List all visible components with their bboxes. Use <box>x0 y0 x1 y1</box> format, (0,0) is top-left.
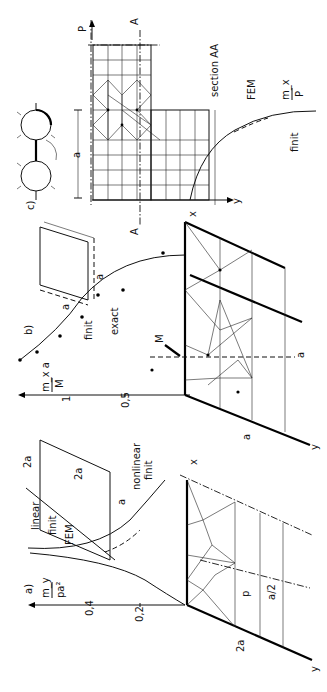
axis-x-a: x <box>188 459 199 465</box>
finit-label-a1: finit <box>47 516 58 535</box>
figure-canvas: c) a <box>0 0 327 692</box>
ylabel-den-b: M <box>54 379 65 388</box>
dim-a-a: a <box>116 499 127 505</box>
finit-label-a2: finit <box>143 461 154 480</box>
finit-label-c: finit <box>289 133 300 152</box>
fem-label-c: FEM <box>246 79 257 100</box>
axis-y-c: y <box>231 198 242 204</box>
finit-label-b: finit <box>83 321 94 340</box>
dim-2a-a2: 2a <box>73 468 84 481</box>
panel-a-label: a) <box>23 584 34 594</box>
load-M: M <box>154 334 165 343</box>
panel-a: 2a 2a a linear finit FEM nonlinear finit… <box>22 440 320 672</box>
dim-a-b1: a <box>60 304 71 310</box>
section-aa-label: section AA <box>209 44 220 97</box>
tick-02-a: 0,2 <box>134 606 145 622</box>
circle-joint-icon <box>17 103 57 200</box>
ylabel-num-c: m_x <box>280 79 292 100</box>
linear-label: linear <box>30 501 41 530</box>
axis-x-b: x <box>187 211 198 217</box>
panel-b: b) a a finit exact m_x a M 1 0,5 <box>18 211 320 450</box>
load-P: P <box>77 26 88 32</box>
nonlinear-label: nonlinear <box>131 442 142 490</box>
dim-2a-a3: 2a <box>235 640 246 653</box>
dim-a-b4: a <box>241 434 252 440</box>
axis-y-a: y <box>309 666 320 672</box>
ylabel-den-a: pa² <box>55 582 66 598</box>
fem-label-a: FEM <box>64 524 75 545</box>
section-mark-A-bottom: A <box>129 228 140 235</box>
dim-a-c: a <box>71 152 82 158</box>
exact-curve-b <box>20 255 185 360</box>
ylabel-den-c: P <box>294 91 305 97</box>
plate-icon-b <box>40 222 94 305</box>
dim-2a-a1: 2a <box>22 456 33 469</box>
panel-b-label: b) <box>23 325 34 335</box>
dim-a-half: a/2 <box>266 584 277 600</box>
panel-c: c) a <box>17 18 316 235</box>
load-p: p <box>240 591 251 597</box>
fem-mesh-c <box>93 45 209 200</box>
panel-c-label: c) <box>25 201 36 210</box>
section-mark-A-top: A <box>129 18 140 25</box>
fem-mesh-a <box>180 475 312 660</box>
axis-y-b: y <box>309 444 320 450</box>
ylabel-num-b: m_x a <box>40 362 52 392</box>
ylabel-num-a: m_y <box>40 577 52 598</box>
exact-label-b: exact <box>109 307 120 335</box>
tick-04-a: 0,4 <box>84 600 95 616</box>
tick-1-b: 1 <box>61 396 72 402</box>
dim-a-b3: a <box>295 352 306 358</box>
fem-curve-c <box>234 118 268 132</box>
